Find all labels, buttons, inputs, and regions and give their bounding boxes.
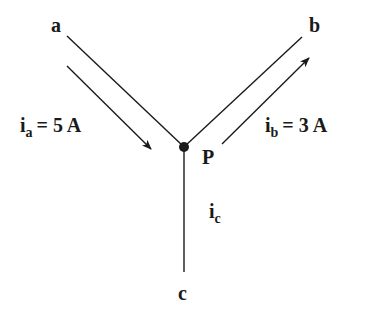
- current-arrow-a: [67, 66, 151, 149]
- junction-diagram: a b c P ia= 5 A ib= 3 A ic: [0, 0, 376, 311]
- current-value-b: = 3 A: [282, 114, 327, 136]
- node-dot: [179, 142, 189, 152]
- current-sub-a: a: [26, 125, 33, 140]
- current-sub-c: c: [215, 211, 221, 226]
- terminal-label-b: b: [309, 14, 320, 36]
- current-value-a: = 5 A: [37, 114, 82, 136]
- node-label-p: P: [202, 146, 214, 168]
- terminal-label-a: a: [51, 14, 61, 36]
- current-label-c: ic: [209, 200, 221, 226]
- current-label-b: ib= 3 A: [265, 114, 328, 140]
- terminal-label-c: c: [178, 282, 187, 304]
- current-label-a: ia= 5 A: [20, 114, 82, 140]
- current-sub-b: b: [271, 125, 279, 140]
- wire-a: [67, 36, 183, 146]
